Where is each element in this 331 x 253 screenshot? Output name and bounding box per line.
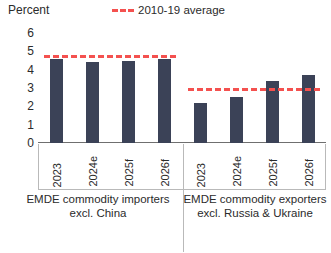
- y-axis-unit-label: Percent: [8, 3, 49, 17]
- average-line: [44, 55, 175, 58]
- bar: [86, 62, 99, 143]
- group-caption-exporters: EMDE commodity exporters excl. Russia & …: [180, 192, 330, 221]
- x-axis-baseline: [38, 142, 326, 143]
- y-axis-tick-4: 4: [27, 64, 34, 76]
- x-axis-tick-label: 2023: [195, 163, 207, 187]
- bar: [158, 59, 171, 143]
- x-axis-tick-label: 2025f: [267, 159, 279, 187]
- red-dashed-line-icon: [112, 9, 134, 12]
- y-axis-tick-6: 6: [27, 27, 34, 39]
- y-axis-tick-2: 2: [27, 100, 34, 112]
- x-axis-tick-label: 2025f: [123, 159, 135, 187]
- category-band: 20232024e2025f2026f20232024e2025f2026f: [38, 144, 326, 190]
- y-axis-tick-5: 5: [27, 45, 34, 57]
- x-axis-tick-label: 2024e: [87, 156, 99, 187]
- y-axis-tick-3: 3: [27, 82, 34, 94]
- x-axis-tick-label: 2026f: [159, 159, 171, 187]
- x-axis-tick-label: 2024e: [231, 156, 243, 187]
- bar: [302, 75, 315, 143]
- bar: [230, 97, 243, 143]
- x-axis-tick-label: 2023: [51, 163, 63, 187]
- chart-figure: Percent 2010-19 average 6543210 20232024…: [0, 0, 331, 253]
- chart-legend: 2010-19 average: [112, 4, 225, 16]
- plot-area: 6543210: [38, 33, 326, 143]
- legend-label-average: 2010-19 average: [138, 4, 225, 16]
- average-line: [188, 88, 319, 91]
- y-axis-tick-0: 0: [27, 137, 34, 149]
- bar: [194, 103, 207, 143]
- bar: [50, 59, 63, 143]
- bar: [122, 61, 135, 144]
- group-caption-importers: EMDE commodity importers excl. China: [20, 192, 176, 221]
- x-axis-tick-label: 2026f: [303, 159, 315, 187]
- y-axis-tick-1: 1: [27, 119, 34, 131]
